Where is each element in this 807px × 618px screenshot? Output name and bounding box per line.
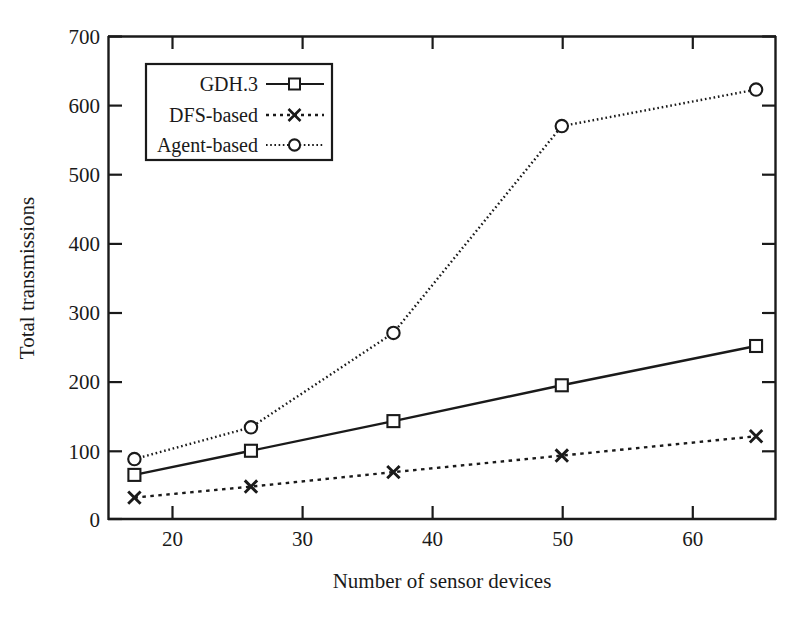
x-tick-label: 60 [682,527,703,551]
data-point [556,379,568,391]
y-tick-labels: 700 600 500 400 300 200 100 0 [69,25,101,532]
data-point [750,340,762,352]
legend-label-dfs: DFS-based [169,104,258,126]
series-gdh-3 [128,340,762,481]
legend-label-gdh3: GDH.3 [200,73,258,95]
y-tick-label: 100 [69,440,101,464]
data-point [750,83,762,95]
data-point [556,120,568,132]
x-tick-labels: 20 30 40 50 60 [162,527,703,551]
y-tick-label: 700 [69,25,101,49]
y-tick-label: 500 [69,163,101,187]
series-line [134,436,756,497]
y-tick-label: 200 [69,370,101,394]
y-axis-title: Total transmissions [15,197,39,359]
data-point [750,430,762,442]
series-dfs-based [128,430,762,504]
x-tick-label: 50 [552,527,573,551]
y-tick-label: 0 [90,508,101,532]
series-line [134,346,756,475]
legend-label-agent: Agent-based [157,134,258,157]
x-tick-label: 40 [422,527,443,551]
chart-figure: 700 600 500 400 300 200 100 0 20 30 40 5… [0,0,807,618]
data-point [128,469,140,481]
data-point [128,491,140,503]
y-tick-label: 400 [69,232,101,256]
data-point [387,327,399,339]
x-axis-title: Number of sensor devices [333,569,552,593]
y-tick-label: 600 [69,94,101,118]
data-point [387,415,399,427]
data-point [128,453,140,465]
x-tick-label: 30 [292,527,313,551]
data-point [245,421,257,433]
y-tick-label: 300 [69,301,101,325]
x-tick-label: 20 [162,527,183,551]
data-point [245,445,257,457]
chart-svg: 700 600 500 400 300 200 100 0 20 30 40 5… [0,0,807,618]
legend: GDH.3 DFS-based Agent-based [146,64,332,160]
